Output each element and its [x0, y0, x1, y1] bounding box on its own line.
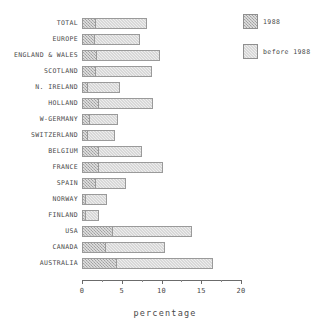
category-label: SWITZERLAND	[0, 130, 78, 141]
bar-segment-1988	[82, 114, 90, 125]
category-label: CANADA	[0, 242, 78, 253]
x-tick-minor	[221, 280, 222, 282]
x-tick	[122, 280, 123, 284]
bar-segment-1988	[82, 66, 96, 77]
category-label: ENGLAND & WALES	[0, 50, 78, 61]
bar-segment-before-1988	[96, 50, 160, 61]
bar-segment-1988	[82, 18, 96, 29]
bar-segment-1988	[82, 34, 95, 45]
bar-segment-1988	[82, 146, 99, 157]
bar-segment-before-1988	[85, 210, 100, 221]
bar-segment-before-1988	[89, 114, 118, 125]
category-label: USA	[0, 226, 78, 237]
x-tick-label: 5	[119, 287, 124, 295]
bar-segment-1988	[82, 258, 117, 269]
category-label: FRANCE	[0, 162, 78, 173]
bar-chart: TOTAL EUROPE ENGLAND & WALES SCOTLAND N.…	[0, 0, 330, 335]
x-axis-title: percentage	[0, 308, 330, 318]
category-label: AUSTRALIA	[0, 258, 78, 269]
legend-swatch-icon-before-1988	[243, 44, 258, 59]
bar-segment-before-1988	[94, 34, 140, 45]
category-label: W-GERMANY	[0, 114, 78, 125]
category-axis-labels: TOTAL EUROPE ENGLAND & WALES SCOTLAND N.…	[0, 18, 78, 280]
category-label: FINLAND	[0, 210, 78, 221]
category-label: EUROPE	[0, 34, 78, 45]
category-label: N. IRELAND	[0, 82, 78, 93]
bar-segment-before-1988	[95, 18, 147, 29]
legend-swatch-icon-1988	[243, 14, 258, 29]
bar-segment-1988	[82, 98, 99, 109]
x-tick	[201, 280, 202, 284]
category-label: TOTAL	[0, 18, 78, 29]
bar-segment-1988	[82, 162, 99, 173]
legend-label: 1988	[263, 18, 280, 26]
bar-segment-before-1988	[95, 66, 152, 77]
category-label: SPAIN	[0, 178, 78, 189]
x-tick-minor	[142, 280, 143, 282]
bar-segment-before-1988	[95, 178, 126, 189]
bar-segment-1988	[82, 178, 96, 189]
bar-segment-1988	[82, 194, 86, 205]
x-tick-label: 20	[236, 287, 245, 295]
bar-segment-before-1988	[87, 82, 120, 93]
bar-segment-before-1988	[116, 258, 213, 269]
bar-segment-before-1988	[98, 146, 143, 157]
bar-segment-before-1988	[87, 130, 114, 141]
bar-segment-before-1988	[85, 194, 107, 205]
category-label: NORWAY	[0, 194, 78, 205]
category-label: HOLLAND	[0, 98, 78, 109]
category-label: SCOTLAND	[0, 66, 78, 77]
bar-segment-1988	[82, 226, 113, 237]
legend-label: before 1988	[263, 48, 310, 56]
x-tick-minor	[102, 280, 103, 282]
bar-segment-1988	[82, 242, 106, 253]
plot-area	[82, 18, 241, 280]
category-label: BELGIUM	[0, 146, 78, 157]
bar-segment-before-1988	[105, 242, 165, 253]
bar-segment-1988	[82, 82, 88, 93]
x-tick	[241, 280, 242, 284]
x-tick-minor	[181, 280, 182, 282]
bar-segment-1988	[82, 50, 97, 61]
x-tick-label: 15	[197, 287, 206, 295]
bar-segment-1988	[82, 130, 88, 141]
bar-segment-before-1988	[112, 226, 192, 237]
bar-segment-1988	[82, 210, 86, 221]
bar-segment-before-1988	[98, 162, 163, 173]
x-tick-label: 0	[80, 287, 85, 295]
x-tick-label: 10	[157, 287, 166, 295]
x-tick	[82, 280, 83, 284]
x-tick	[162, 280, 163, 284]
bar-segment-before-1988	[98, 98, 152, 109]
